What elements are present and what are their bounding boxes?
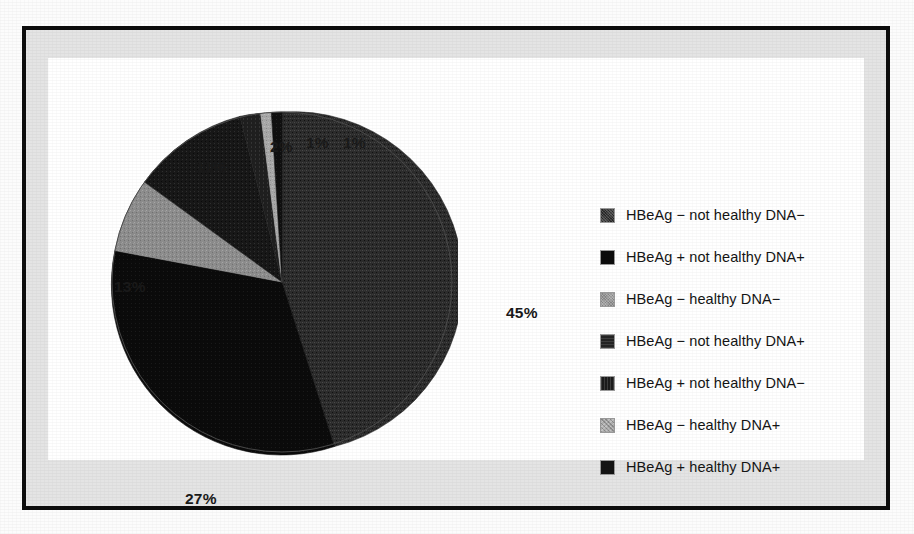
legend-item-label: HBeAg + healthy DNA+ (626, 459, 780, 475)
legend-swatch-icon (600, 292, 615, 307)
legend-swatch-icon (600, 460, 615, 475)
legend-item-label: HBeAg − not healthy DNA+ (626, 333, 805, 349)
pie-label-45: 45% (506, 304, 538, 322)
pie-label-1-a: 1% (306, 134, 329, 152)
pie-label-1-b: 1% (343, 134, 366, 152)
pie-label-11: 11% (196, 158, 227, 176)
plot-area: 45% 27% 13% 11% 2% 1% 1% HBeAg − not hea… (48, 58, 864, 460)
legend-swatch-icon (600, 334, 615, 349)
legend-item: HBeAg + not healthy DNA− (600, 362, 910, 404)
pie-chart (106, 106, 458, 458)
legend-swatch-icon (600, 376, 615, 391)
legend-item: HBeAg − not healthy DNA+ (600, 320, 910, 362)
legend-item-label: HBeAg + not healthy DNA+ (626, 249, 805, 265)
chart-legend: HBeAg − not healthy DNA− HBeAg + not hea… (600, 194, 910, 488)
pie-label-2: 2% (270, 138, 293, 156)
legend-swatch-icon (600, 250, 615, 265)
pie-svg (106, 106, 458, 458)
legend-item-label: HBeAg − healthy DNA+ (626, 417, 780, 433)
pie-label-13: 13% (114, 278, 146, 296)
legend-swatch-icon (600, 208, 615, 223)
legend-item: HBeAg + not healthy DNA+ (600, 236, 910, 278)
legend-swatch-icon (600, 418, 615, 433)
chart-frame-border: 45% 27% 13% 11% 2% 1% 1% HBeAg − not hea… (22, 26, 890, 510)
legend-item: HBeAg − healthy DNA− (600, 278, 910, 320)
pie-label-27: 27% (185, 490, 217, 508)
legend-item: HBeAg − healthy DNA+ (600, 404, 910, 446)
legend-item-label: HBeAg − healthy DNA− (626, 291, 780, 307)
legend-item-label: HBeAg + not healthy DNA− (626, 375, 805, 391)
legend-item: HBeAg − not healthy DNA− (600, 194, 910, 236)
chart-screenshot: 45% 27% 13% 11% 2% 1% 1% HBeAg − not hea… (0, 0, 914, 534)
legend-item: HBeAg + healthy DNA+ (600, 446, 910, 488)
legend-item-label: HBeAg − not healthy DNA− (626, 207, 805, 223)
